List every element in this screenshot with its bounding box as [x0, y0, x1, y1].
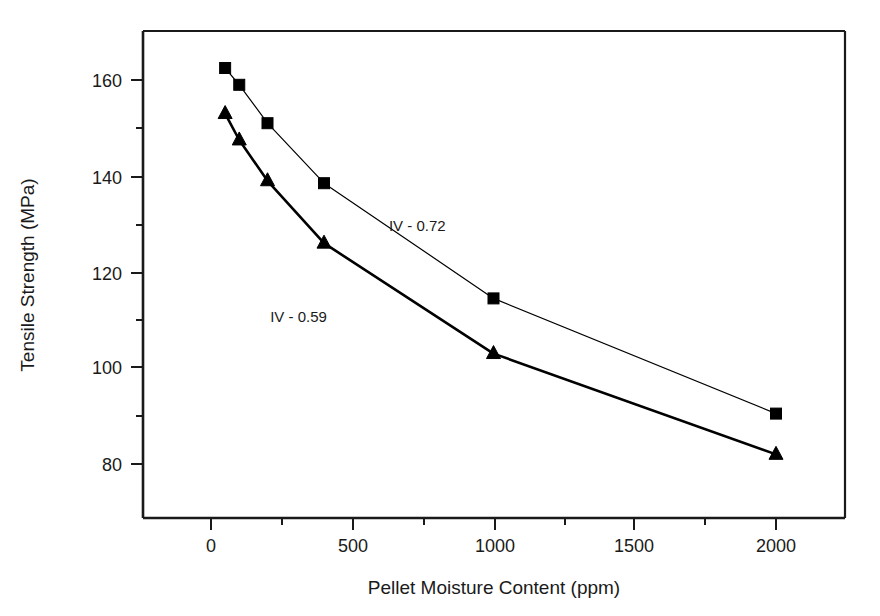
- marker-square: [771, 408, 782, 419]
- y-tick-label-140: 140: [92, 168, 122, 188]
- marker-square: [319, 178, 330, 189]
- y-tick-label-100: 100: [92, 358, 122, 378]
- x-axis-title: Pellet Moisture Content (ppm): [368, 577, 620, 598]
- marker-square: [234, 79, 245, 90]
- y-axis-title: Tensile Strength (MPa): [17, 178, 38, 371]
- tensile-strength-chart: 160 140 120 100 80 0 500 1000 1500 2000 …: [0, 0, 880, 616]
- y-tick-label-120: 120: [92, 264, 122, 284]
- figure-background: [0, 0, 880, 616]
- marker-square: [488, 293, 499, 304]
- x-tick-label-1000: 1000: [475, 536, 515, 556]
- y-tick-label-80: 80: [102, 455, 122, 475]
- series-label-2: IV - 0.59: [270, 308, 327, 325]
- x-tick-label-2000: 2000: [756, 536, 796, 556]
- series-label-1: IV - 0.72: [389, 217, 446, 234]
- x-tick-label-500: 500: [338, 536, 368, 556]
- x-tick-label-0: 0: [206, 536, 216, 556]
- marker-square: [262, 118, 273, 129]
- y-tick-label-160: 160: [92, 71, 122, 91]
- x-tick-label-1500: 1500: [614, 536, 654, 556]
- marker-square: [220, 63, 231, 74]
